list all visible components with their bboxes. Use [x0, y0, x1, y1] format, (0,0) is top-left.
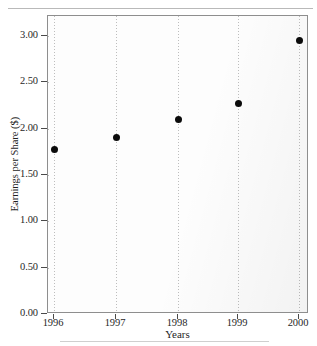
x-tick-label: 1997 — [93, 318, 137, 329]
x-tick-label: 2000 — [276, 318, 317, 329]
gridline-horizontal — [48, 129, 307, 130]
y-tick-label: 0.00 — [4, 308, 38, 319]
gridline-horizontal — [48, 82, 307, 83]
x-tick-mark — [298, 314, 299, 319]
x-tick-label: 1998 — [155, 318, 199, 329]
y-tick-label: 0.50 — [4, 262, 38, 273]
gridline-horizontal — [48, 268, 307, 269]
x-tick-mark — [237, 314, 238, 319]
y-tick-label: 3.00 — [4, 30, 38, 41]
data-point — [235, 100, 242, 107]
gridline-horizontal — [48, 36, 307, 37]
x-tick-mark — [177, 314, 178, 319]
chart-figure: Earnings per Share ($) 0.000.501.001.502… — [0, 0, 317, 346]
gridline-horizontal — [48, 175, 307, 176]
y-tick-label: 2.50 — [4, 76, 38, 87]
x-tick-label: 1996 — [31, 318, 75, 329]
x-axis-title: Years — [47, 329, 308, 340]
y-tick-label: 1.00 — [4, 215, 38, 226]
gridline-horizontal — [48, 221, 307, 222]
y-tick-label: 1.50 — [4, 169, 38, 180]
bottom-rule — [60, 341, 269, 342]
x-tick-label: 1999 — [215, 318, 259, 329]
data-point — [296, 37, 303, 44]
y-tick-mark — [41, 313, 47, 314]
data-point — [175, 116, 182, 123]
x-tick-mark — [115, 314, 116, 319]
data-point — [51, 146, 58, 153]
top-rule — [8, 8, 313, 9]
y-tick-label: 2.00 — [4, 123, 38, 134]
data-point — [113, 134, 120, 141]
x-tick-mark — [53, 314, 54, 319]
plot-area — [47, 15, 308, 313]
